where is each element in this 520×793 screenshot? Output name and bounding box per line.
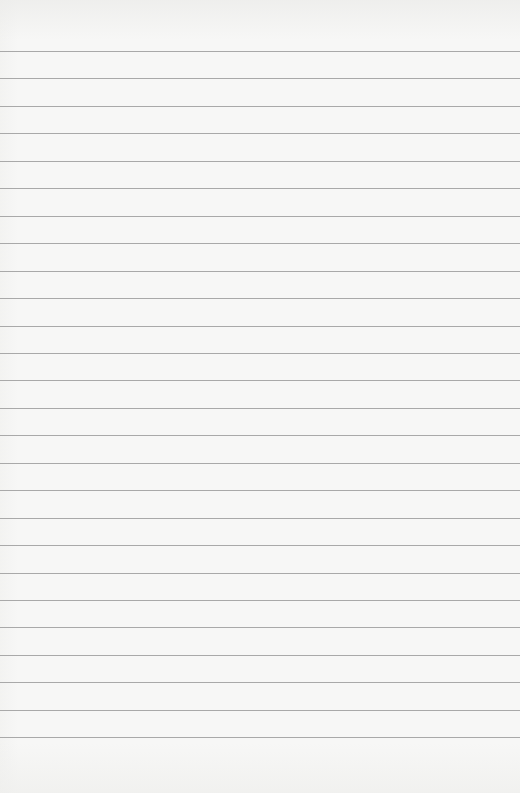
ruled-line bbox=[0, 545, 520, 546]
ruled-line bbox=[0, 216, 520, 217]
ruled-line bbox=[0, 737, 520, 738]
ruled-line bbox=[0, 353, 520, 354]
ruled-line bbox=[0, 490, 520, 491]
ruled-line bbox=[0, 435, 520, 436]
ruled-line bbox=[0, 133, 520, 134]
ruled-line bbox=[0, 655, 520, 656]
ruled-line bbox=[0, 188, 520, 189]
ruled-line bbox=[0, 271, 520, 272]
ruled-line bbox=[0, 408, 520, 409]
ruled-line bbox=[0, 78, 520, 79]
ruled-line bbox=[0, 518, 520, 519]
ruled-line bbox=[0, 463, 520, 464]
ruled-line bbox=[0, 600, 520, 601]
ruled-line bbox=[0, 573, 520, 574]
ruled-line bbox=[0, 243, 520, 244]
ruled-line bbox=[0, 51, 520, 52]
ruled-line bbox=[0, 161, 520, 162]
ruled-line bbox=[0, 682, 520, 683]
lined-paper-page bbox=[0, 0, 520, 793]
ruled-line bbox=[0, 326, 520, 327]
ruled-line bbox=[0, 627, 520, 628]
ruled-line bbox=[0, 106, 520, 107]
ruled-line bbox=[0, 380, 520, 381]
ruled-line bbox=[0, 298, 520, 299]
ruled-line bbox=[0, 710, 520, 711]
